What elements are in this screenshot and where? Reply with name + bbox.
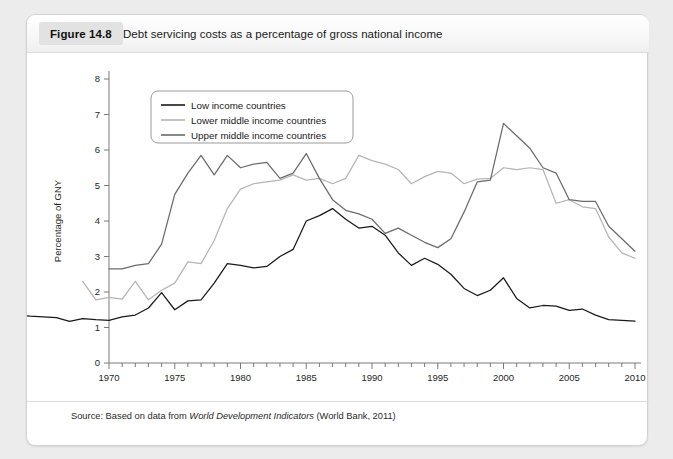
x-axis-tick-label: 2010 [624, 372, 645, 383]
figure-header-bar: Figure 14.8 Debt servicing costs as a pe… [27, 15, 649, 53]
line-chart: 0123456781970197519801985199019952000200… [27, 53, 649, 401]
y-axis-tick-label: 7 [95, 109, 100, 120]
y-axis-tick-label: 4 [95, 215, 100, 226]
x-axis-tick-label: 1985 [296, 372, 317, 383]
source-suffix: (World Bank, 2011) [314, 411, 396, 421]
x-axis-tick-label: 1975 [164, 372, 185, 383]
legend-label-0: Low income countries [191, 100, 286, 111]
y-axis-tick-label: 3 [95, 251, 100, 262]
series-line-0 [27, 209, 635, 322]
figure-card: Figure 14.8 Debt servicing costs as a pe… [26, 14, 648, 446]
x-axis-tick-label: 1970 [98, 372, 119, 383]
legend-label-1: Lower middle income countries [191, 115, 326, 126]
y-axis-tick-label: 6 [95, 144, 100, 155]
chart-plot-region: 0123456781970197519801985199019952000200… [27, 53, 649, 401]
x-axis-tick-label: 2005 [559, 372, 580, 383]
y-axis-tick-label: 5 [95, 180, 100, 191]
legend-label-2: Upper middle income countries [191, 130, 326, 141]
source-prefix: Source: Based on data from [71, 411, 189, 421]
figure-number-tag: Figure 14.8 [39, 22, 123, 45]
x-axis-tick-label: 1990 [361, 372, 382, 383]
figure-title: Debt servicing costs as a percentage of … [123, 22, 442, 45]
x-axis-tick-label: 2000 [493, 372, 514, 383]
y-axis-title: Percentage of GNY [52, 179, 63, 262]
x-axis-tick-label: 1995 [427, 372, 448, 383]
y-axis-tick-label: 1 [95, 322, 100, 333]
y-axis-tick-label: 2 [95, 286, 100, 297]
y-axis-tick-label: 8 [95, 73, 100, 84]
figure-source-bar: Source: Based on data from World Develop… [27, 401, 649, 446]
source-italic-title: World Development Indicators [189, 411, 314, 421]
y-axis-tick-label: 0 [95, 357, 100, 368]
series-line-2 [109, 123, 635, 269]
source-caption: Source: Based on data from World Develop… [71, 411, 396, 421]
x-axis-tick-label: 1980 [230, 372, 251, 383]
